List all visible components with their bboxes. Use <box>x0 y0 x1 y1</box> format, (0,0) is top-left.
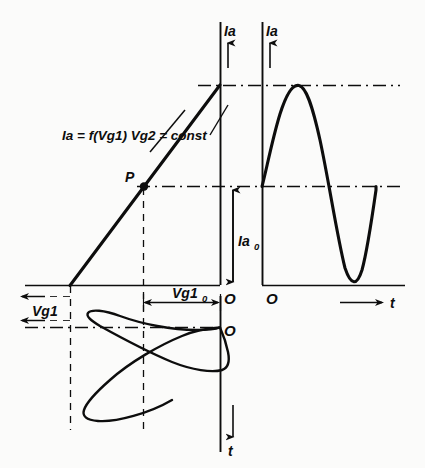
ia-axis-label-right: Ia <box>266 23 278 39</box>
vg1-bias-label: Vg1 0 <box>172 285 208 304</box>
output-anode-current-waveform <box>262 85 376 281</box>
equation-label: Ia = f(Vg1) Vg2 = const <box>62 128 207 143</box>
operating-point-marker <box>140 182 148 190</box>
time-axis-label-down: t <box>228 443 234 459</box>
vg1-bias-label-main: Vg1 <box>172 285 198 301</box>
origin-label-right: O <box>266 290 278 307</box>
origin-label-lower: O <box>224 322 236 339</box>
figure-canvas: Ia = f(Vg1) Vg2 = const P Ia Ia Ia 0 Vg1… <box>0 0 425 468</box>
operating-point-label: P <box>125 169 135 185</box>
ia-quiescent-label-main: Ia <box>238 233 250 249</box>
ia-axis-label-left: Ia <box>224 23 236 39</box>
vg1-bias-label-sub: 0 <box>202 293 208 304</box>
time-axis-label-right: t <box>390 295 396 311</box>
transfer-characteristic-figure: Ia = f(Vg1) Vg2 = const P Ia Ia Ia 0 Vg1… <box>0 0 425 468</box>
ia-quiescent-label-sub: 0 <box>254 241 260 252</box>
ia-quiescent-label: Ia 0 <box>238 233 260 252</box>
vg1-axis-label: Vg1 <box>32 303 58 319</box>
origin-label-left: O <box>224 290 236 307</box>
